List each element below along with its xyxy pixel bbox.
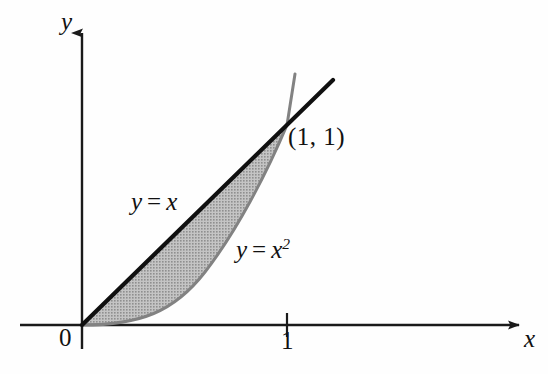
parabola-equation-operator: = [252, 236, 266, 263]
parabola-equation-exponent: 2 [282, 235, 290, 252]
parabola-equation-rhs: x [271, 236, 282, 263]
line-equation-rhs: x [166, 188, 177, 215]
plot-canvas [0, 0, 548, 374]
y-axis-label: y [61, 9, 72, 34]
line-equation-operator: = [147, 188, 161, 215]
curve-line [82, 80, 333, 325]
math-figure: y x 0 1 (1, 1) y=x y=x2 [0, 0, 548, 374]
parabola-equation-lhs: y [236, 236, 247, 263]
x-tick-label-1: 1 [281, 328, 294, 353]
x-axis-label: x [524, 326, 535, 351]
line-equation-label: y=x [131, 189, 177, 214]
line-equation-lhs: y [131, 188, 142, 215]
origin-label: 0 [59, 325, 72, 350]
parabola-equation-label: y=x2 [236, 236, 290, 262]
intersection-point-label: (1, 1) [288, 124, 345, 149]
